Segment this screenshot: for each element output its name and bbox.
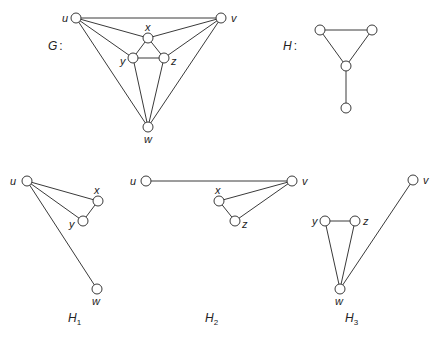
edge-y-w (325, 221, 340, 289)
graph-title: G: (48, 39, 63, 53)
vertex-label: v (302, 175, 309, 187)
vertex-x (143, 33, 153, 43)
graph-g: uvxyzwG: (48, 12, 238, 145)
vertex-x (214, 196, 224, 206)
vertex-w (92, 284, 102, 294)
vertex-v (408, 175, 418, 185)
vertex-label: x (144, 21, 151, 33)
graph-title: H3 (345, 311, 359, 327)
edge-b-c (346, 30, 372, 66)
vertex-label: x (93, 184, 100, 196)
vertex-d (341, 103, 351, 113)
graph-h2: uvxzH2 (130, 175, 309, 327)
vertex-label: y (119, 55, 127, 67)
vertex-label: u (130, 175, 136, 187)
vertex-b (367, 25, 377, 35)
graph-h1: uxywH1 (10, 175, 103, 327)
vertex-v (216, 13, 226, 23)
edge-a-c (320, 30, 346, 66)
vertex-label: z (241, 218, 248, 230)
vertex-y (78, 216, 88, 226)
vertex-label: v (423, 174, 430, 186)
vertex-v (287, 176, 297, 186)
vertex-label: w (144, 133, 153, 145)
vertex-y (320, 216, 330, 226)
vertex-label: u (62, 12, 68, 24)
vertex-c (341, 61, 351, 71)
graph-h: H: (283, 25, 377, 113)
vertex-u (141, 176, 151, 186)
edge-u-w (27, 181, 97, 289)
edge-v-w (148, 18, 221, 127)
graph-diagram-canvas: uvxyzwG:H:uxywH1uvxzH2yzwvH3 (0, 0, 445, 338)
vertex-z (159, 53, 169, 63)
vertex-a (315, 25, 325, 35)
edge-u-y (27, 181, 83, 221)
vertex-label: y (68, 218, 76, 230)
graph-title: H: (283, 39, 297, 53)
edge-z-w (148, 58, 164, 127)
vertex-x (93, 196, 103, 206)
vertex-w (143, 122, 153, 132)
edge-v-z (235, 181, 292, 221)
edge-z-w (340, 221, 355, 289)
vertex-label: w (92, 295, 101, 307)
edge-w-v (340, 180, 413, 289)
edge-v-z (164, 18, 221, 58)
graph-title: H1 (68, 311, 82, 327)
edge-y-w (133, 58, 148, 127)
vertex-label: u (10, 175, 16, 187)
vertex-z (230, 216, 240, 226)
edge-u-y (76, 18, 133, 58)
vertex-label: v (231, 12, 238, 24)
vertex-label: y (311, 215, 319, 227)
edge-u-w (76, 18, 148, 127)
vertex-y (128, 53, 138, 63)
vertex-label: w (335, 295, 344, 307)
vertex-label: z (170, 55, 177, 67)
vertex-u (71, 13, 81, 23)
vertex-u (22, 176, 32, 186)
vertex-z (350, 216, 360, 226)
vertex-label: x (214, 184, 221, 196)
vertex-w (335, 284, 345, 294)
graph-title: H2 (205, 311, 219, 327)
graph-h3: yzwvH3 (311, 174, 430, 327)
edge-v-x (219, 181, 292, 201)
vertex-label: z (362, 215, 369, 227)
